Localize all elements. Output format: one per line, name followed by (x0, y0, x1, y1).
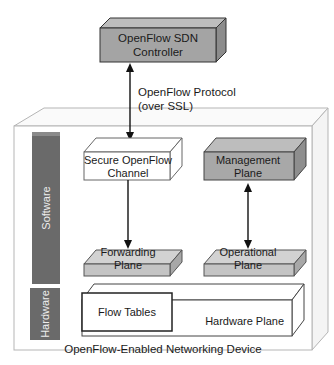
hardware-plane-label: Hardware Plane (205, 315, 284, 327)
hardware-bar: Hardware (30, 288, 60, 340)
operational-plane-line2: Plane (234, 259, 262, 271)
operational-plane-box: Operational Plane (204, 246, 306, 276)
flow-tables-label: Flow Tables (98, 306, 156, 318)
software-bar: Software (32, 132, 60, 284)
secure-channel-box: Secure OpenFlow Channel (84, 138, 182, 180)
software-label: Software (40, 186, 52, 229)
operational-plane-line1: Operational (220, 246, 277, 258)
management-plane-line1: Management (216, 154, 280, 166)
controller-line1: OpenFlow SDN (118, 32, 198, 44)
controller-box: OpenFlow SDN Controller (100, 18, 226, 62)
management-plane-box: Management Plane (204, 138, 306, 180)
forwarding-plane-line2: Plane (114, 259, 142, 271)
hardware-label: Hardware (39, 290, 51, 338)
forwarding-plane-line1: Forwarding (100, 246, 155, 258)
protocol-line1: OpenFlow Protocol (138, 86, 236, 98)
flow-tables-box: Flow Tables (82, 293, 172, 331)
protocol-line2: (over SSL) (138, 100, 193, 112)
device-label: OpenFlow-Enabled Networking Device (64, 343, 262, 355)
management-plane-line2: Plane (234, 167, 262, 179)
forwarding-plane-box: Forwarding Plane (84, 246, 182, 276)
secure-channel-line1: Secure OpenFlow (84, 154, 172, 166)
controller-line2: Controller (133, 46, 183, 58)
openflow-diagram: Software Hardware OpenFlow SDN Controlle… (0, 0, 334, 365)
secure-channel-line2: Channel (108, 167, 149, 179)
